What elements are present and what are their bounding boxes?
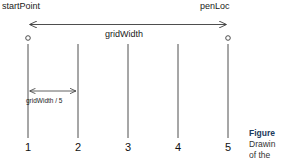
start-point-label: startPoint <box>2 2 40 11</box>
figure-caption-title: Figure <box>249 128 292 139</box>
figure-caption-line-1: Drawin <box>249 139 292 150</box>
figure-caption: Figure Drawin of the <box>249 128 292 162</box>
tick-number-1: 1 <box>21 142 35 153</box>
tick-number-5: 5 <box>221 142 235 153</box>
tick-number-4: 4 <box>171 142 185 153</box>
figure-caption-line-2: of the <box>249 150 292 161</box>
pen-loc-marker <box>226 36 231 41</box>
tick-number-3: 3 <box>121 142 135 153</box>
start-point-marker <box>26 36 31 41</box>
tick-number-2: 2 <box>71 142 85 153</box>
grid-width-label: gridWidth <box>105 30 143 39</box>
figure-canvas: startPoint penLoc gridWidth gridWidth / … <box>0 0 292 162</box>
pen-loc-label: penLoc <box>200 2 230 11</box>
grid-width-div5-label: gridWidth / 5 <box>26 98 63 105</box>
